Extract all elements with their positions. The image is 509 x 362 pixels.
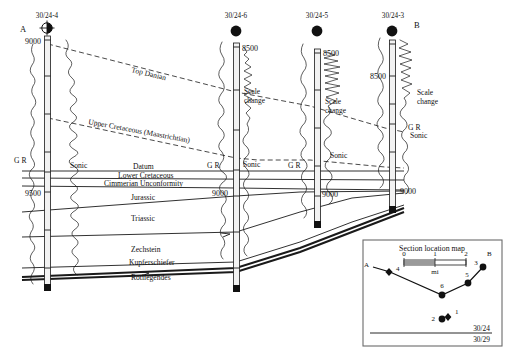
well-30-24-3-name: 30/24-3 (382, 12, 405, 20)
well-30-24-5[interactable]: 30/24-5 8500 9000 Scale change G R Sonic (288, 12, 348, 228)
horizon-label-triassic: Triassic (131, 214, 155, 223)
well-30-24-5-sonic-curve (324, 52, 340, 204)
inset-well-number-4: 4 (396, 265, 400, 273)
well-30-24-6-head-symbol (231, 26, 242, 37)
inset-end-marker-a (385, 268, 392, 276)
well-30-24-6-depth-8500: 8500 (242, 44, 258, 53)
horizon-text-labels: Top Danian Upper Cretaceous (Maastrichti… (88, 65, 192, 282)
well-30-24-5-borehole-track (315, 49, 321, 227)
well-30-24-5-sonic-label: Sonic (330, 151, 348, 160)
well-30-24-6[interactable]: 30/24-6 8500 9000 Scale change G R Sonic (207, 12, 266, 292)
inset-well-number-5: 5 (465, 271, 469, 279)
inset-well-dot-1[interactable] (445, 313, 452, 321)
well-30-24-5-scale-change-line2: change (325, 106, 347, 115)
horizon-label-upper-cretaceous: Upper Cretaceous (Maastrichtian) (88, 117, 192, 145)
inset-well-dot-3[interactable] (480, 264, 487, 271)
well-30-24-5-head-symbol (312, 26, 323, 37)
well-30-24-6-scale-change-line2: change (244, 96, 266, 105)
well-30-24-5-name: 30/24-5 (306, 12, 329, 20)
horizon-label-jurassic: Jurassic (131, 193, 156, 202)
inset-block-label-lower: 30/29 (473, 335, 490, 344)
well-30-24-4-sonic-label: Sonic (70, 161, 88, 170)
well-30-24-4-gamma-ray-curve (29, 44, 36, 284)
well-30-24-4-depth-9000: 9000 (25, 37, 41, 46)
horizon-lower-cretaceous-line (22, 178, 404, 180)
inset-end-label-a: A (364, 261, 369, 269)
horizon-label-top-danian: Top Danian (131, 65, 168, 82)
well-30-24-6-sonic-label: Sonic (243, 160, 261, 169)
cross-section-canvas: 30/24-4 9000 9500 G R (0, 0, 509, 362)
well-30-24-5-gr-label: G R (288, 161, 301, 170)
well-30-24-5-depth-8500: 8500 (323, 49, 339, 58)
inset-well-dot-5[interactable] (465, 280, 472, 287)
well-30-24-4-gr-label: G R (14, 156, 27, 165)
well-30-24-6-borehole-track (234, 43, 240, 291)
horizon-label-kupferschiefer: Kupferschiefer (129, 258, 175, 267)
well-log-cross-section-figure: 30/24-4 9000 9500 G R (0, 0, 509, 362)
inset-scale-bar: 0 1 2 mi (402, 250, 468, 276)
inset-scale-tick-1: 1 (433, 250, 437, 258)
horizon-label-rotliegendes: Rotliegendes (131, 273, 171, 282)
section-end-label-a: A (20, 24, 27, 34)
well-30-24-4-depth-9500: 9500 (25, 189, 41, 198)
inset-well-dot-2[interactable] (439, 316, 446, 323)
well-30-24-3-head-symbol (387, 26, 398, 37)
well-30-24-5-depth-9000: 9000 (322, 190, 338, 199)
well-30-24-5-td-marker (314, 221, 321, 228)
well-30-24-4-sonic-curve (66, 40, 79, 275)
well-30-24-6-name: 30/24-6 (225, 12, 248, 20)
well-30-24-4-name: 30/24-4 (36, 12, 59, 20)
well-30-24-3-sonic-label: Sonic (410, 131, 428, 140)
well-30-24-3-gamma-ray-curve (377, 38, 384, 188)
inset-block-label-upper: 30/24 (473, 324, 490, 333)
well-30-24-4-borehole-track (45, 36, 51, 290)
horizon-arrow-marker (221, 233, 230, 237)
well-30-24-6-sonic-curve (243, 48, 253, 256)
horizon-zechstein-line (22, 205, 404, 268)
well-30-24-4[interactable]: 30/24-4 9000 9500 G R (14, 12, 88, 291)
well-30-24-6-td-marker (233, 285, 240, 292)
inset-scale-tick-2: 2 (464, 250, 468, 258)
inset-scale-tick-0: 0 (402, 250, 406, 258)
well-30-24-3-scale-change-line2: change (417, 97, 439, 106)
inset-scale-unit: mi (431, 268, 438, 276)
well-30-24-3[interactable]: 30/24-3 8500 9000 Scale change G R Sonic (370, 12, 439, 213)
well-30-24-4-head-symbol (40, 21, 55, 36)
well-30-24-3-depth-8500: 8500 (370, 72, 386, 81)
inset-well-number-6: 6 (440, 282, 444, 290)
inset-end-label-b: B (487, 250, 492, 258)
horizon-label-datum: Datum (133, 162, 154, 171)
well-30-24-6-gamma-ray-curve (218, 42, 227, 259)
horizon-label-zechstein: Zechstein (131, 245, 161, 254)
well-30-24-6-scale-change-line1: Scale (244, 87, 261, 96)
section-location-map-inset[interactable]: Section location map 0 1 2 mi A 4 (363, 240, 502, 346)
inset-well-number-3: 3 (474, 259, 478, 267)
well-30-24-5-scale-change-line1: Scale (325, 97, 342, 106)
well-30-24-6-depth-9000: 9000 (212, 189, 228, 198)
inset-well-number-1: 1 (455, 308, 459, 316)
horizon-label-cimmerian-unconformity: Cimmerian Unconformity (104, 179, 183, 188)
inset-well-number-2: 2 (432, 315, 436, 323)
inset-well-dot-6[interactable] (439, 292, 446, 299)
well-30-24-3-td-marker (389, 206, 396, 213)
section-end-label-b: B (414, 20, 420, 30)
well-30-24-3-depth-9000: 9000 (400, 187, 416, 196)
inset-map-title: Section location map (399, 244, 465, 253)
well-30-24-3-scale-change-line1: Scale (417, 88, 434, 97)
well-30-24-3-borehole-track (390, 40, 396, 212)
well-30-24-6-gr-label: G R (207, 161, 220, 170)
well-30-24-4-td-marker (44, 284, 51, 291)
